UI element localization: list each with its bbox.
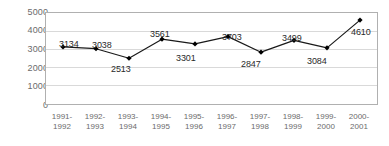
x-axis-tick-2: 1993- 1994 bbox=[111, 112, 145, 132]
x-axis-tick-4: 1995- 1996 bbox=[177, 112, 211, 132]
data-label-6: 2847 bbox=[241, 60, 261, 69]
x-axis-tick-8: 1999- 2000 bbox=[309, 112, 343, 132]
data-label-3: 3561 bbox=[150, 30, 170, 39]
data-label-2: 2513 bbox=[111, 65, 131, 74]
series-plot bbox=[46, 13, 377, 104]
x-axis-tick-6: 1997- 1998 bbox=[243, 112, 277, 132]
data-label-7: 3499 bbox=[282, 34, 302, 43]
x-axis-tick-5: 1996- 1997 bbox=[210, 112, 244, 132]
data-label-0: 3134 bbox=[59, 40, 79, 49]
data-label-8: 3084 bbox=[307, 57, 327, 66]
plot-area bbox=[45, 12, 378, 105]
data-label-5: 3703 bbox=[222, 33, 242, 42]
line-chart: 5000 4000 3000 2000 1000 0 3134 3038 251… bbox=[0, 0, 389, 146]
y-axis-tick-0: 0 bbox=[8, 101, 48, 110]
data-point-marker bbox=[192, 41, 197, 46]
data-label-4: 3301 bbox=[176, 54, 196, 63]
y-axis-tick-3000: 3000 bbox=[8, 45, 48, 54]
data-label-1: 3038 bbox=[92, 41, 112, 50]
data-label-9: 4610 bbox=[351, 28, 371, 37]
y-axis-tick-4000: 4000 bbox=[8, 26, 48, 35]
y-axis-tick-5000: 5000 bbox=[8, 8, 48, 17]
x-axis-tick-3: 1994- 1995 bbox=[144, 112, 178, 132]
x-axis-tick-7: 1998- 1999 bbox=[276, 112, 310, 132]
x-axis-tick-0: 1991- 1992 bbox=[45, 112, 79, 132]
y-axis-tick-1000: 1000 bbox=[8, 82, 48, 91]
y-axis-tick-2000: 2000 bbox=[8, 64, 48, 73]
data-point-marker bbox=[258, 50, 263, 55]
x-axis-tick-1: 1992- 1993 bbox=[78, 112, 112, 132]
x-axis-tick-9: 2000- 2001 bbox=[342, 112, 376, 132]
data-point-marker bbox=[126, 56, 131, 61]
